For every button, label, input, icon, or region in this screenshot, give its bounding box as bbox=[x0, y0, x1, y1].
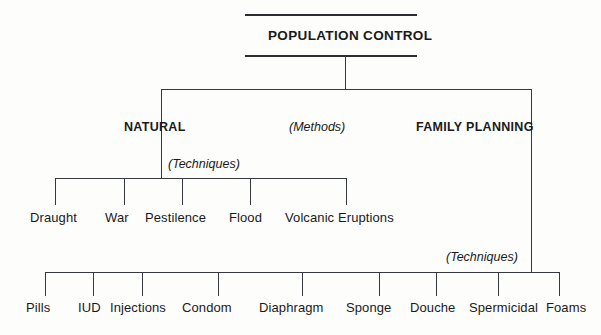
root-stem bbox=[345, 56, 346, 90]
natural-children-bar bbox=[55, 178, 346, 179]
fp-child-drop-iud bbox=[93, 272, 94, 296]
fp-child-drop-foams bbox=[559, 272, 560, 296]
fp-child-label-iud: IUD bbox=[78, 301, 101, 314]
fp-child-drop-pills bbox=[45, 272, 46, 296]
fp-child-drop-injections bbox=[142, 272, 143, 296]
fp-child-label-injections: Injections bbox=[110, 301, 166, 314]
natural-child-drop-draught bbox=[55, 178, 56, 205]
natural-child-drop-flood bbox=[250, 178, 251, 205]
fp-child-label-foams: Foams bbox=[546, 301, 586, 314]
branch-label-natural: NATURAL bbox=[124, 121, 186, 134]
root-rule-top bbox=[245, 14, 417, 16]
fp-child-label-spermicidal: Spermicidal bbox=[469, 301, 538, 314]
natural-child-drop-war bbox=[124, 178, 125, 205]
fp-child-label-douche: Douche bbox=[410, 301, 455, 314]
root-node-label: POPULATION CONTROL bbox=[268, 29, 432, 43]
natural-child-drop-pestilence bbox=[182, 178, 183, 205]
family-planning-techniques-annotation: (Techniques) bbox=[446, 251, 518, 264]
natural-techniques-annotation: (Techniques) bbox=[168, 158, 240, 171]
natural-child-label-war: War bbox=[105, 211, 129, 224]
fp-child-label-diaphragm: Diaphragm bbox=[259, 301, 324, 314]
natural-child-label-draught: Draught bbox=[30, 211, 77, 224]
natural-child-label-volcanic-eruptions: Volcanic Eruptions bbox=[285, 211, 394, 224]
root-rule-bottom bbox=[245, 55, 417, 57]
family-planning-branch-stem bbox=[531, 89, 532, 272]
fp-child-drop-diaphragm bbox=[302, 272, 303, 296]
natural-child-drop-volcanic-eruptions bbox=[346, 178, 347, 205]
natural-child-label-pestilence: Pestilence bbox=[145, 211, 206, 224]
methods-annotation: (Methods) bbox=[289, 121, 345, 134]
fp-child-drop-condom bbox=[218, 272, 219, 296]
branch-label-family-planning: FAMILY PLANNING bbox=[416, 121, 534, 134]
fp-child-label-pills: Pills bbox=[26, 301, 50, 314]
natural-child-label-flood: Flood bbox=[229, 211, 262, 224]
level2-connector-bar bbox=[161, 89, 531, 90]
fp-child-label-sponge: Sponge bbox=[346, 301, 391, 314]
fp-child-drop-spermicidal bbox=[498, 272, 499, 296]
population-control-diagram: POPULATION CONTROL NATURAL (Methods) FAM… bbox=[0, 0, 601, 335]
fp-child-label-condom: Condom bbox=[182, 301, 232, 314]
fp-child-drop-sponge bbox=[379, 272, 380, 296]
fp-child-drop-douche bbox=[436, 272, 437, 296]
